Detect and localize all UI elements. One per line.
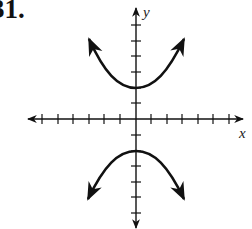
hyperbola-graph: y x [0, 0, 252, 229]
y-axis-label: y [141, 4, 150, 20]
x-axis-label: x [238, 125, 246, 141]
